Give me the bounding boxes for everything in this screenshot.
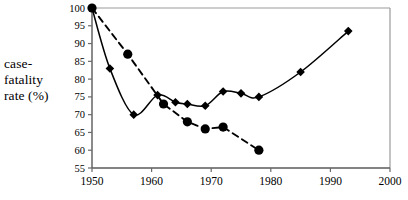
x-tick-label: 1970 <box>200 175 223 187</box>
y-axis-ticks: 556065707580859095100 <box>69 3 92 174</box>
y-tick-label: 75 <box>75 91 86 102</box>
data-point-marker <box>106 64 115 73</box>
y-tick-label: 80 <box>75 74 86 85</box>
data-point-marker <box>159 99 168 108</box>
x-tick-label: 2000 <box>379 175 402 187</box>
data-point-marker <box>201 124 210 133</box>
data-point-marker <box>87 3 96 12</box>
y-tick-label: 95 <box>75 20 86 31</box>
x-axis-ticks: 195019601970198019902000 <box>81 168 402 187</box>
y-tick-label: 85 <box>75 56 86 67</box>
solid-diamond-series <box>88 4 353 119</box>
x-tick-label: 1960 <box>140 175 163 187</box>
x-tick-label: 1990 <box>319 175 342 187</box>
data-point-marker <box>171 98 180 107</box>
data-point-marker <box>183 117 192 126</box>
data-point-marker <box>183 100 192 109</box>
data-point-marker <box>219 87 228 96</box>
y-tick-label: 65 <box>75 127 86 138</box>
y-tick-label: 100 <box>69 3 85 14</box>
data-point-marker <box>237 89 246 98</box>
solid-diamond-series-line <box>92 8 348 115</box>
dashed-circle-series-line <box>92 8 259 150</box>
data-series-layer <box>87 3 352 154</box>
data-point-marker <box>255 93 264 102</box>
chart-figure: case- fatality rate (%) 5560657075808590… <box>0 0 408 200</box>
x-tick-label: 1980 <box>259 175 282 187</box>
y-tick-label: 70 <box>75 109 86 120</box>
x-tick-label: 1950 <box>81 175 104 187</box>
data-point-marker <box>219 123 228 132</box>
data-point-marker <box>254 146 263 155</box>
y-tick-label: 60 <box>75 145 86 156</box>
y-tick-label: 90 <box>75 38 86 49</box>
data-point-marker <box>201 101 210 110</box>
data-point-marker <box>123 50 132 59</box>
y-tick-label: 55 <box>75 163 86 174</box>
chart-plot-area: 556065707580859095100 195019601970198019… <box>0 0 408 200</box>
